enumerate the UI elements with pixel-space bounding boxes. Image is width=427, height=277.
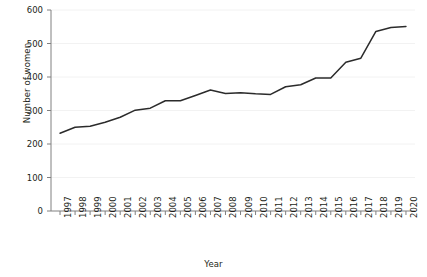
x-tick-label: 2009 xyxy=(245,196,254,218)
x-tick-label: 2010 xyxy=(260,196,269,218)
x-tick-label: 2019 xyxy=(395,196,404,218)
y-axis-title: Number of women xyxy=(22,28,32,138)
x-tick-label: 2002 xyxy=(139,196,148,218)
y-tick-label: 600 xyxy=(9,6,43,15)
x-tick-label: 2015 xyxy=(335,196,344,218)
x-tick-label: 2012 xyxy=(290,196,299,218)
x-tick-label: 1999 xyxy=(94,196,103,218)
line-chart: 0100200300400500600 19971998199920002001… xyxy=(0,0,427,277)
x-tick-label: 2004 xyxy=(169,196,178,218)
x-tick-label: 2014 xyxy=(320,196,329,218)
x-tick-label: 2013 xyxy=(305,196,314,218)
x-tick-label: 2001 xyxy=(124,196,133,218)
y-tick-label: 200 xyxy=(9,140,43,149)
x-tick-label: 1998 xyxy=(79,196,88,218)
x-axis-title: Year xyxy=(0,259,427,269)
x-tick-label: 2018 xyxy=(380,196,389,218)
x-tick-label: 2020 xyxy=(410,196,419,218)
data-series-line xyxy=(60,26,406,133)
plot-area xyxy=(0,0,427,277)
x-tick-label: 2000 xyxy=(109,196,118,218)
x-tick-label: 2008 xyxy=(229,196,238,218)
y-tick-label: 100 xyxy=(9,174,43,183)
x-tick-label: 2017 xyxy=(365,196,374,218)
x-tick-label: 2007 xyxy=(214,196,223,218)
x-tick-label: 2011 xyxy=(275,196,284,218)
x-tick-label: 2006 xyxy=(199,196,208,218)
x-tick-label: 1997 xyxy=(64,196,73,218)
x-tick-label: 2005 xyxy=(184,196,193,218)
axis-ticks xyxy=(47,10,406,215)
y-tick-label: 0 xyxy=(9,207,43,216)
x-tick-label: 2003 xyxy=(154,196,163,218)
x-tick-label: 2016 xyxy=(350,196,359,218)
